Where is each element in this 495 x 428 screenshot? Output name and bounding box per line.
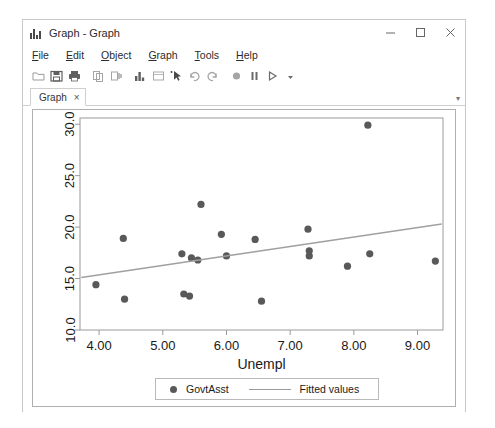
menu-item-file[interactable]: File bbox=[32, 49, 49, 61]
menu-item-graph[interactable]: Graph bbox=[148, 49, 177, 61]
data-point bbox=[252, 236, 259, 243]
data-point bbox=[121, 296, 128, 303]
x-tick-label: 9.00 bbox=[405, 338, 430, 353]
window-controls bbox=[375, 20, 465, 45]
data-point bbox=[366, 250, 373, 257]
data-point bbox=[120, 235, 127, 242]
data-point bbox=[186, 292, 193, 299]
y-tick-label: 15.0 bbox=[63, 266, 78, 291]
x-tick-label: 4.00 bbox=[86, 338, 111, 353]
copy-icon[interactable] bbox=[90, 68, 107, 85]
y-tick-label: 10.0 bbox=[63, 317, 78, 342]
graph-outer-frame: 10.015.020.025.030.04.005.006.007.008.00… bbox=[32, 109, 456, 407]
pause-icon[interactable] bbox=[246, 68, 263, 85]
menu-item-tools[interactable]: Tools bbox=[195, 49, 220, 61]
new-graph-icon[interactable] bbox=[132, 68, 149, 85]
menu-item-object[interactable]: Object bbox=[101, 49, 131, 61]
legend-entry-fitted: Fitted values bbox=[249, 383, 360, 395]
y-tick-label: 20.0 bbox=[63, 214, 78, 239]
paste-icon[interactable] bbox=[108, 68, 125, 85]
tab-overflow-icon[interactable]: ▾ bbox=[456, 94, 460, 103]
print-icon[interactable] bbox=[66, 68, 83, 85]
tab-graph-label: Graph bbox=[39, 92, 67, 103]
menu-item-help[interactable]: Help bbox=[236, 49, 258, 61]
data-point bbox=[258, 298, 265, 305]
play-icon[interactable] bbox=[264, 68, 281, 85]
data-point bbox=[178, 250, 185, 257]
data-point bbox=[92, 281, 99, 288]
toolbar bbox=[23, 65, 465, 87]
legend-label-govtasst: GovtAsst bbox=[186, 383, 229, 395]
open-folder-icon[interactable] bbox=[30, 68, 47, 85]
fit-line bbox=[81, 224, 441, 278]
save-icon[interactable] bbox=[48, 68, 65, 85]
data-point bbox=[218, 231, 225, 238]
y-tick-label: 30.0 bbox=[63, 112, 78, 137]
rename-icon[interactable] bbox=[150, 68, 167, 85]
data-point bbox=[432, 257, 439, 264]
x-tick-label: 8.00 bbox=[341, 338, 366, 353]
scatter-plot: 10.015.020.025.030.04.005.006.007.008.00… bbox=[33, 110, 457, 406]
legend-entry-govtasst: GovtAsst bbox=[170, 383, 229, 395]
redo-icon[interactable] bbox=[204, 68, 221, 85]
tab-strip: Graph × ▾ bbox=[23, 87, 465, 106]
menu-item-edit[interactable]: Edit bbox=[66, 49, 84, 61]
graph-window: Graph - Graph File Edit Object Graph Too… bbox=[22, 19, 466, 412]
undo-icon[interactable] bbox=[186, 68, 203, 85]
legend-marker-line bbox=[249, 389, 291, 390]
graph-bars-icon bbox=[30, 27, 43, 39]
data-point bbox=[364, 122, 371, 129]
x-tick-label: 5.00 bbox=[150, 338, 175, 353]
maximize-icon[interactable] bbox=[405, 20, 435, 45]
graph-canvas: 10.015.020.025.030.04.005.006.007.008.00… bbox=[23, 106, 465, 412]
data-point bbox=[197, 201, 204, 208]
chart-legend: GovtAsst Fitted values bbox=[155, 378, 379, 400]
data-point bbox=[306, 252, 313, 259]
tab-graph[interactable]: Graph × bbox=[30, 88, 86, 106]
y-tick-label: 25.0 bbox=[63, 163, 78, 188]
dropdown-arrow-icon[interactable] bbox=[282, 68, 299, 85]
close-icon[interactable] bbox=[435, 20, 465, 45]
menu-bar: File Edit Object Graph Tools Help bbox=[23, 45, 465, 65]
pointer-select-icon[interactable] bbox=[168, 68, 185, 85]
data-point bbox=[344, 263, 351, 270]
tab-close-icon[interactable]: × bbox=[74, 92, 80, 103]
minimize-icon[interactable] bbox=[375, 20, 405, 45]
record-icon[interactable] bbox=[228, 68, 245, 85]
title-bar: Graph - Graph bbox=[23, 20, 465, 45]
x-tick-label: 6.00 bbox=[214, 338, 239, 353]
legend-marker-dot bbox=[170, 386, 177, 393]
x-axis-label: Unempl bbox=[237, 356, 285, 372]
legend-label-fitted: Fitted values bbox=[300, 383, 360, 395]
window-title: Graph - Graph bbox=[49, 27, 120, 39]
data-point bbox=[304, 226, 311, 233]
x-tick-label: 7.00 bbox=[278, 338, 303, 353]
